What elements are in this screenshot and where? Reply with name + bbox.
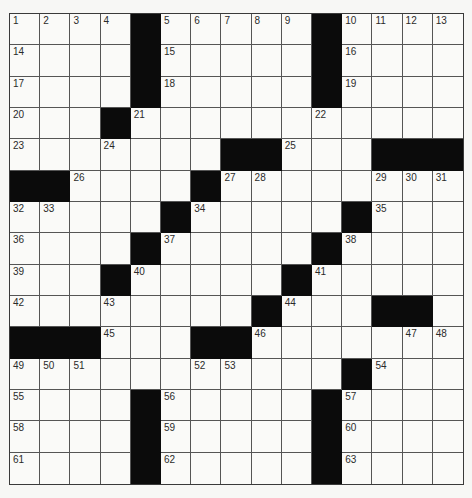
crossword-cell[interactable] bbox=[101, 390, 131, 421]
crossword-cell[interactable] bbox=[433, 359, 463, 390]
crossword-cell[interactable] bbox=[131, 359, 161, 390]
crossword-cell[interactable] bbox=[282, 359, 312, 390]
crossword-cell[interactable] bbox=[403, 202, 433, 233]
crossword-cell[interactable] bbox=[433, 421, 463, 452]
crossword-cell[interactable]: 22 bbox=[312, 108, 342, 139]
crossword-cell[interactable] bbox=[101, 171, 131, 202]
crossword-cell[interactable]: 41 bbox=[312, 265, 342, 296]
crossword-cell[interactable] bbox=[252, 202, 282, 233]
crossword-cell[interactable] bbox=[252, 421, 282, 452]
crossword-cell[interactable] bbox=[191, 453, 221, 484]
crossword-cell[interactable] bbox=[70, 202, 100, 233]
crossword-cell[interactable] bbox=[40, 453, 70, 484]
crossword-cell[interactable] bbox=[403, 233, 433, 264]
crossword-cell[interactable]: 10 bbox=[342, 14, 372, 45]
crossword-cell[interactable]: 14 bbox=[10, 45, 40, 76]
crossword-cell[interactable]: 27 bbox=[221, 171, 251, 202]
crossword-cell[interactable] bbox=[191, 108, 221, 139]
crossword-cell[interactable]: 42 bbox=[10, 296, 40, 327]
crossword-cell[interactable]: 11 bbox=[372, 14, 402, 45]
crossword-cell[interactable] bbox=[40, 390, 70, 421]
crossword-cell[interactable] bbox=[221, 265, 251, 296]
crossword-cell[interactable] bbox=[433, 265, 463, 296]
crossword-cell[interactable] bbox=[101, 202, 131, 233]
crossword-cell[interactable] bbox=[40, 139, 70, 170]
crossword-cell[interactable]: 5 bbox=[161, 14, 191, 45]
crossword-cell[interactable]: 30 bbox=[403, 171, 433, 202]
crossword-cell[interactable] bbox=[191, 421, 221, 452]
crossword-cell[interactable] bbox=[70, 265, 100, 296]
crossword-cell[interactable] bbox=[403, 390, 433, 421]
crossword-cell[interactable] bbox=[252, 359, 282, 390]
crossword-cell[interactable] bbox=[161, 108, 191, 139]
crossword-cell[interactable]: 4 bbox=[101, 14, 131, 45]
crossword-cell[interactable] bbox=[342, 296, 372, 327]
crossword-cell[interactable] bbox=[342, 265, 372, 296]
crossword-cell[interactable]: 1 bbox=[10, 14, 40, 45]
crossword-cell[interactable] bbox=[40, 421, 70, 452]
crossword-cell[interactable] bbox=[70, 108, 100, 139]
crossword-cell[interactable] bbox=[433, 77, 463, 108]
crossword-cell[interactable] bbox=[433, 296, 463, 327]
crossword-cell[interactable] bbox=[282, 108, 312, 139]
crossword-cell[interactable]: 53 bbox=[221, 359, 251, 390]
crossword-cell[interactable] bbox=[70, 139, 100, 170]
crossword-cell[interactable] bbox=[191, 77, 221, 108]
crossword-cell[interactable] bbox=[372, 45, 402, 76]
crossword-cell[interactable] bbox=[252, 453, 282, 484]
crossword-cell[interactable] bbox=[403, 108, 433, 139]
crossword-cell[interactable]: 49 bbox=[10, 359, 40, 390]
crossword-cell[interactable] bbox=[403, 45, 433, 76]
crossword-cell[interactable] bbox=[312, 359, 342, 390]
crossword-cell[interactable] bbox=[221, 202, 251, 233]
crossword-cell[interactable] bbox=[372, 390, 402, 421]
crossword-cell[interactable] bbox=[161, 327, 191, 358]
crossword-cell[interactable] bbox=[372, 421, 402, 452]
crossword-cell[interactable] bbox=[221, 453, 251, 484]
crossword-cell[interactable]: 3 bbox=[70, 14, 100, 45]
crossword-cell[interactable]: 56 bbox=[161, 390, 191, 421]
crossword-cell[interactable]: 29 bbox=[372, 171, 402, 202]
crossword-cell[interactable]: 38 bbox=[342, 233, 372, 264]
crossword-cell[interactable] bbox=[403, 359, 433, 390]
crossword-cell[interactable]: 39 bbox=[10, 265, 40, 296]
crossword-cell[interactable]: 50 bbox=[40, 359, 70, 390]
crossword-cell[interactable]: 62 bbox=[161, 453, 191, 484]
crossword-cell[interactable] bbox=[221, 45, 251, 76]
crossword-cell[interactable] bbox=[403, 421, 433, 452]
crossword-cell[interactable] bbox=[312, 296, 342, 327]
crossword-cell[interactable] bbox=[131, 171, 161, 202]
crossword-cell[interactable] bbox=[252, 45, 282, 76]
crossword-cell[interactable] bbox=[101, 233, 131, 264]
crossword-cell[interactable]: 46 bbox=[252, 327, 282, 358]
crossword-cell[interactable]: 51 bbox=[70, 359, 100, 390]
crossword-cell[interactable] bbox=[131, 296, 161, 327]
crossword-cell[interactable]: 26 bbox=[70, 171, 100, 202]
crossword-cell[interactable] bbox=[282, 421, 312, 452]
crossword-cell[interactable]: 31 bbox=[433, 171, 463, 202]
crossword-cell[interactable]: 57 bbox=[342, 390, 372, 421]
crossword-cell[interactable] bbox=[191, 265, 221, 296]
crossword-cell[interactable]: 28 bbox=[252, 171, 282, 202]
crossword-cell[interactable]: 13 bbox=[433, 14, 463, 45]
crossword-cell[interactable]: 63 bbox=[342, 453, 372, 484]
crossword-cell[interactable]: 6 bbox=[191, 14, 221, 45]
crossword-cell[interactable] bbox=[433, 233, 463, 264]
crossword-cell[interactable]: 23 bbox=[10, 139, 40, 170]
crossword-cell[interactable] bbox=[101, 453, 131, 484]
crossword-cell[interactable] bbox=[70, 453, 100, 484]
crossword-cell[interactable]: 2 bbox=[40, 14, 70, 45]
crossword-cell[interactable] bbox=[221, 77, 251, 108]
crossword-cell[interactable]: 58 bbox=[10, 421, 40, 452]
crossword-cell[interactable] bbox=[342, 139, 372, 170]
crossword-cell[interactable]: 43 bbox=[101, 296, 131, 327]
crossword-cell[interactable]: 47 bbox=[403, 327, 433, 358]
crossword-cell[interactable]: 44 bbox=[282, 296, 312, 327]
crossword-cell[interactable]: 7 bbox=[221, 14, 251, 45]
crossword-cell[interactable] bbox=[403, 265, 433, 296]
crossword-cell[interactable] bbox=[433, 390, 463, 421]
crossword-cell[interactable] bbox=[191, 233, 221, 264]
crossword-cell[interactable] bbox=[312, 202, 342, 233]
crossword-cell[interactable] bbox=[161, 359, 191, 390]
crossword-cell[interactable] bbox=[221, 390, 251, 421]
